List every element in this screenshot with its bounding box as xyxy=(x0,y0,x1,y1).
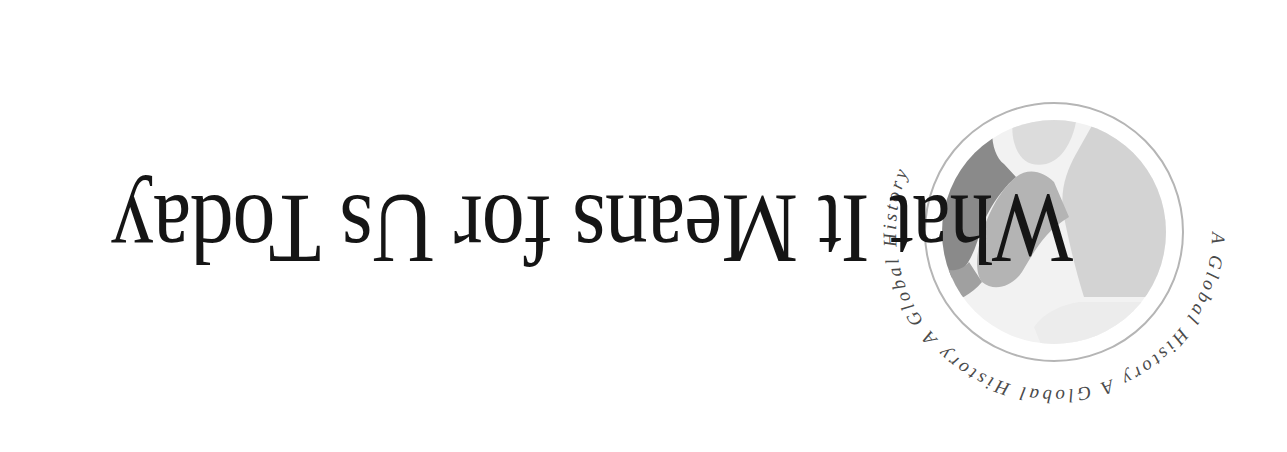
page-title: What It Means for Us Today xyxy=(112,174,1073,284)
book-page: A Global History A Global History A Glob… xyxy=(0,0,1287,452)
